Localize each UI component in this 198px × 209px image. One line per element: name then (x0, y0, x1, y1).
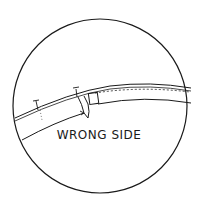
facing-end (88, 92, 98, 104)
pin-2 (76, 89, 77, 97)
inset-circle (13, 19, 187, 193)
fabric-bottom-edge-right (98, 99, 191, 104)
wrong-side-label: WRONG SIDE (0, 128, 198, 142)
fabric-top-edge (15, 84, 191, 118)
stitch-line (95, 89, 190, 93)
sewing-detail-diagram (0, 0, 198, 209)
